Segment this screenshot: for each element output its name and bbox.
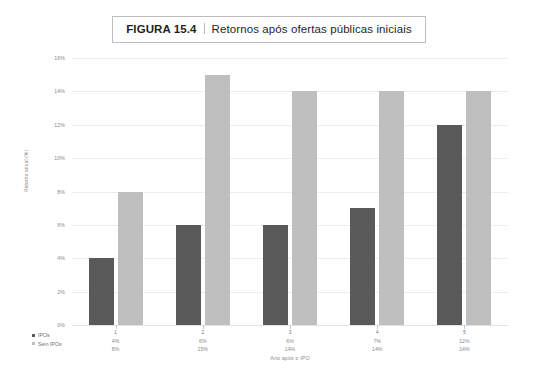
title-divider (204, 23, 205, 34)
data-value-ipos-year-2: 6% (199, 338, 207, 344)
bar-group-1 (89, 58, 143, 325)
bar-group-2 (176, 58, 230, 325)
bar-ipos-year-4[interactable] (350, 208, 375, 325)
y-tick-label-2: 2% (57, 289, 65, 295)
bar-ipos-year-2[interactable] (176, 225, 201, 325)
data-value-sem-ipos-year-4: 14% (372, 346, 382, 352)
bar-ipos-year-3[interactable] (263, 225, 288, 325)
y-tick-label-16: 16% (54, 55, 65, 61)
bar-ipos-year-5[interactable] (437, 125, 462, 325)
data-value-ipos-year-3: 6% (286, 338, 294, 344)
x-tick-label-4: 4 (376, 329, 379, 335)
x-tick-label-1: 1 (114, 329, 117, 335)
legend-swatch-icon (32, 342, 35, 345)
y-tick-label-4: 4% (57, 255, 65, 261)
figure-number: FIGURA 15.4 (126, 24, 196, 36)
x-tick-label-2: 2 (201, 329, 204, 335)
data-value-sem-ipos-year-3: 14% (285, 346, 295, 352)
bar-group-3 (263, 58, 317, 325)
legend-label: IPOs (38, 331, 50, 340)
figure-title: FIGURA 15.4 Retornos após ofertas públic… (112, 16, 426, 43)
legend-item-sem-ipos[interactable]: Sem IPOs (32, 340, 62, 349)
data-value-ipos-year-1: 4% (112, 338, 120, 344)
figure-title-container: FIGURA 15.4 Retornos após ofertas públic… (0, 16, 538, 43)
y-tick-label-6: 6% (57, 222, 65, 228)
data-value-ipos-year-5: 12% (459, 338, 469, 344)
legend-label: Sem IPOs (38, 340, 62, 349)
y-tick-label-10: 10% (54, 155, 65, 161)
x-axis-title: Ano após o IPO (72, 355, 508, 361)
figure-caption: Retornos após ofertas públicas iniciais (212, 24, 412, 36)
y-axis-tick-labels: 0%2%4%6%8%10%12%14%16% (0, 58, 72, 325)
x-tick-label-5: 5 (463, 329, 466, 335)
y-tick-label-12: 12% (54, 122, 65, 128)
bar-ipos-year-1[interactable] (89, 258, 114, 325)
legend-swatch-icon (32, 334, 35, 337)
bar-sem-ipos-year-3[interactable] (292, 91, 317, 325)
bar-sem-ipos-year-4[interactable] (379, 91, 404, 325)
y-tick-label-0: 0% (57, 322, 65, 328)
x-tick-label-3: 3 (289, 329, 292, 335)
data-value-sem-ipos-year-1: 8% (112, 346, 120, 352)
bar-group-5 (437, 58, 491, 325)
data-value-ipos-year-4: 7% (373, 338, 381, 344)
bar-sem-ipos-year-5[interactable] (466, 91, 491, 325)
legend-item-ipos[interactable]: IPOs (32, 331, 62, 340)
data-value-sem-ipos-year-2: 15% (198, 346, 208, 352)
bar-sem-ipos-year-1[interactable] (118, 192, 143, 326)
plot-area (72, 58, 508, 325)
y-tick-label-14: 14% (54, 88, 65, 94)
chart-legend: IPOsSem IPOs (32, 331, 62, 348)
y-tick-label-8: 8% (57, 189, 65, 195)
bar-sem-ipos-year-2[interactable] (205, 75, 230, 325)
bar-group-4 (350, 58, 404, 325)
data-value-sem-ipos-year-5: 14% (459, 346, 469, 352)
